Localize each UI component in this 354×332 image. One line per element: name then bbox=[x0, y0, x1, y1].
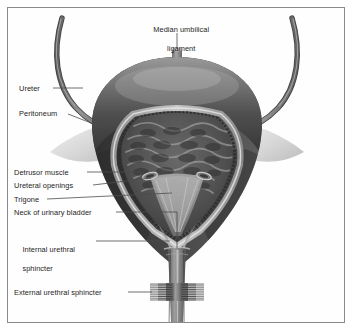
label-internal-urethral-sphincter-line1: Internal urethral bbox=[22, 245, 75, 254]
label-ureteral-openings: Ureteral openings bbox=[14, 181, 73, 190]
label-peritoneum: Peritoneum bbox=[19, 109, 57, 118]
label-external-urethral-sphincter: External urethral sphincter bbox=[14, 288, 102, 297]
label-internal-urethral-sphincter: Internal urethral sphincter bbox=[14, 236, 75, 282]
external-urethral-sphincter-shape bbox=[150, 283, 204, 301]
figure-root: Median umbilical ligament Ureter Periton… bbox=[0, 0, 354, 332]
label-trigone: Trigone bbox=[14, 195, 39, 204]
label-ureter: Ureter bbox=[19, 84, 40, 93]
label-neck-of-urinary-bladder: Neck of urinary bladder bbox=[14, 208, 92, 217]
label-median-umbilical-ligament-line1: Median umbilical bbox=[153, 25, 209, 34]
label-internal-urethral-sphincter-line2: sphincter bbox=[22, 264, 52, 273]
label-median-umbilical-ligament: Median umbilical ligament bbox=[136, 16, 218, 62]
label-detrusor-muscle: Detrusor muscle bbox=[14, 168, 69, 177]
label-median-umbilical-ligament-line2: ligament bbox=[167, 44, 195, 53]
